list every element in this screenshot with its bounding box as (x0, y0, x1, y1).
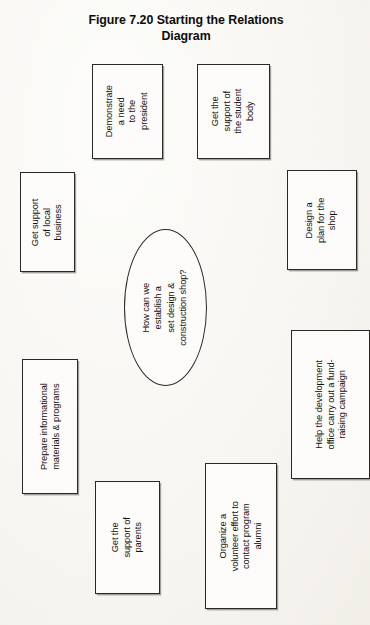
node-help-development-office-fundraising: Help the developmentoffice carry out a f… (291, 330, 370, 479)
central-question-label: How can weestablish aset design &constru… (141, 269, 190, 345)
node-design-plan-for-shop: Design aplan for theshop (287, 170, 357, 270)
node-prepare-informational-materials: Prepare informationalmaterials & program… (22, 359, 78, 494)
figure-page: Figure 7.20 Starting the Relations Diagr… (0, 0, 370, 625)
node-get-support-of-parents: Get thesupport ofparents (95, 481, 160, 594)
node-get-support-of-student-body: Get thesupport ofthe studentbody (197, 64, 270, 159)
node-label: Prepare informationalmaterials & program… (38, 383, 61, 470)
node-label: Organize avolunteer effort tocontact pro… (218, 501, 264, 571)
node-organize-volunteer-effort-alumni: Organize avolunteer effort tocontact pro… (205, 463, 277, 609)
node-get-support-of-local-business: Get supportof localbusiness (20, 172, 75, 272)
figure-title-line-1: Figure 7.20 Starting the Relations (88, 13, 283, 27)
central-question-ellipse: How can weestablish aset design &constru… (124, 229, 207, 386)
figure-title-line-2: Diagram (26, 28, 346, 44)
node-demonstrate-need-to-president: Demonstratea needto thepresident (92, 64, 163, 159)
node-label: Design aplan for theshop (305, 197, 340, 242)
figure-title: Figure 7.20 Starting the Relations Diagr… (26, 12, 346, 45)
node-label: Get thesupport ofparents (110, 517, 145, 557)
node-label: Help the developmentoffice carry out a f… (313, 360, 348, 450)
node-label: Get supportof localbusiness (30, 198, 65, 245)
node-label: Demonstratea needto thepresident (104, 85, 150, 137)
node-label: Get thesupport ofthe studentbody (210, 89, 256, 134)
